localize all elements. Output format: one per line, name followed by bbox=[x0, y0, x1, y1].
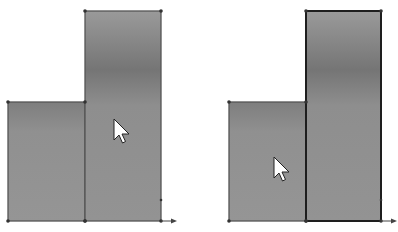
vertex-point[interactable] bbox=[6, 100, 10, 104]
vertex-point[interactable] bbox=[83, 9, 87, 13]
vertex-point[interactable] bbox=[379, 9, 383, 13]
x-axis-arrow-icon bbox=[171, 219, 177, 224]
vertex-point[interactable] bbox=[159, 9, 163, 13]
vertex-point[interactable] bbox=[83, 219, 87, 223]
tall-rectangle-selected[interactable] bbox=[306, 11, 381, 221]
vertex-point[interactable] bbox=[227, 219, 231, 223]
sketch-panel-left bbox=[6, 9, 177, 223]
vertex-point[interactable] bbox=[227, 100, 231, 104]
sketch-drawing[interactable] bbox=[0, 0, 398, 232]
vertex-point[interactable] bbox=[304, 100, 308, 104]
short-rectangle[interactable] bbox=[229, 102, 306, 221]
vertex-point[interactable] bbox=[304, 9, 308, 13]
vertex-point[interactable] bbox=[83, 100, 87, 104]
edge-point bbox=[380, 199, 383, 202]
sketch-panel-right bbox=[227, 9, 397, 223]
short-rectangle[interactable] bbox=[8, 102, 85, 221]
vertex-point[interactable] bbox=[6, 219, 10, 223]
vertex-point[interactable] bbox=[304, 219, 308, 223]
tall-rectangle[interactable] bbox=[85, 11, 161, 221]
edge-point bbox=[160, 199, 163, 202]
sketch-canvas[interactable] bbox=[0, 0, 398, 232]
x-axis-arrow-icon bbox=[391, 219, 397, 224]
